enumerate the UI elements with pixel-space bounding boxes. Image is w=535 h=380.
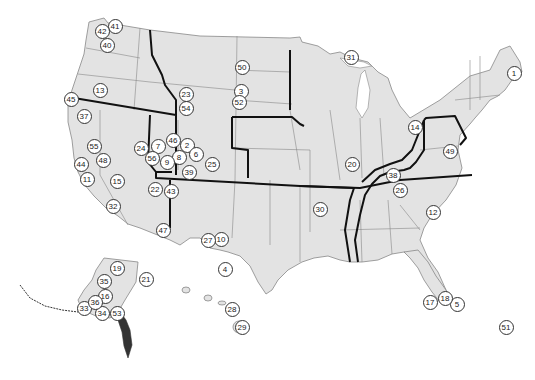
numbered-marker: 44 bbox=[74, 157, 89, 172]
numbered-marker: 30 bbox=[313, 202, 328, 217]
numbered-marker: 26 bbox=[393, 183, 408, 198]
numbered-marker: 28 bbox=[225, 302, 240, 317]
numbered-marker: 6 bbox=[189, 147, 204, 162]
numbered-marker: 46 bbox=[166, 133, 181, 148]
numbered-marker: 17 bbox=[423, 295, 438, 310]
numbered-marker: 27 bbox=[201, 233, 216, 248]
numbered-marker: 19 bbox=[110, 261, 125, 276]
numbered-marker: 54 bbox=[179, 101, 194, 116]
numbered-marker: 45 bbox=[64, 92, 79, 107]
numbered-marker: 10 bbox=[214, 232, 229, 247]
numbered-marker: 56 bbox=[145, 151, 160, 166]
contiguous-us-landmass bbox=[68, 18, 522, 304]
numbered-marker: 4 bbox=[218, 262, 233, 277]
numbered-marker: 38 bbox=[386, 168, 401, 183]
numbered-marker: 11 bbox=[80, 172, 95, 187]
numbered-marker: 9 bbox=[160, 155, 175, 170]
numbered-marker: 37 bbox=[77, 109, 92, 124]
numbered-marker: 41 bbox=[108, 19, 123, 34]
numbered-marker: 23 bbox=[179, 87, 194, 102]
numbered-marker: 12 bbox=[426, 205, 441, 220]
numbered-marker: 29 bbox=[235, 320, 250, 335]
numbered-marker: 43 bbox=[164, 184, 179, 199]
numbered-marker: 52 bbox=[232, 95, 247, 110]
numbered-marker: 49 bbox=[443, 144, 458, 159]
numbered-marker: 40 bbox=[100, 38, 115, 53]
numbered-marker: 39 bbox=[182, 165, 197, 180]
numbered-marker: 55 bbox=[87, 139, 102, 154]
aleutian-islands bbox=[20, 285, 78, 312]
numbered-marker: 18 bbox=[438, 291, 453, 306]
numbered-marker: 36 bbox=[88, 295, 103, 310]
numbered-marker: 20 bbox=[345, 157, 360, 172]
numbered-marker: 42 bbox=[95, 24, 110, 39]
numbered-marker: 31 bbox=[344, 50, 359, 65]
numbered-marker: 32 bbox=[106, 199, 121, 214]
numbered-marker: 21 bbox=[139, 272, 154, 287]
numbered-marker: 25 bbox=[205, 157, 220, 172]
numbered-marker: 53 bbox=[110, 306, 125, 321]
us-map bbox=[0, 0, 535, 380]
numbered-marker: 50 bbox=[235, 60, 250, 75]
numbered-marker: 47 bbox=[156, 223, 171, 238]
numbered-marker: 48 bbox=[96, 153, 111, 168]
numbered-marker: 13 bbox=[93, 83, 108, 98]
numbered-marker: 1 bbox=[507, 66, 522, 81]
numbered-marker: 51 bbox=[499, 320, 514, 335]
numbered-marker: 15 bbox=[110, 174, 125, 189]
numbered-marker: 22 bbox=[148, 182, 163, 197]
numbered-marker: 35 bbox=[97, 274, 112, 289]
numbered-marker: 14 bbox=[408, 120, 423, 135]
